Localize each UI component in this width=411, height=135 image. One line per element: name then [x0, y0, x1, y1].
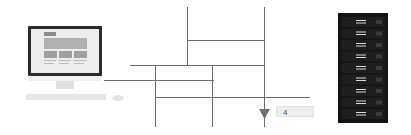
connector-line — [187, 7, 188, 65]
arrow-down-icon — [259, 105, 270, 115]
connector-line — [155, 65, 156, 127]
connector-line — [130, 65, 264, 66]
connector-line — [188, 40, 264, 41]
count-label: 4 — [276, 106, 314, 117]
connector-line — [212, 65, 213, 127]
connector-line — [212, 97, 310, 98]
server-rack-icon — [338, 13, 388, 123]
connector-line — [104, 80, 214, 81]
connector-line — [155, 97, 212, 98]
desktop-computer-icon — [24, 24, 106, 108]
